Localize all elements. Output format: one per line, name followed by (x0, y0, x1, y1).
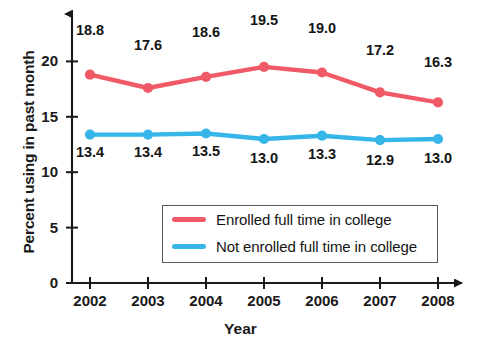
data-label-enrolled-2008: 16.3 (412, 54, 464, 70)
data-label-not-enrolled-2007: 12.9 (354, 152, 406, 168)
data-label-not-enrolled-2003: 13.4 (122, 144, 174, 160)
y-tick-label-15: 15 (24, 108, 58, 125)
y-tick-label-10: 10 (24, 163, 58, 180)
data-label-not-enrolled-2004: 13.5 (180, 143, 232, 159)
y-tick-label-5: 5 (24, 219, 58, 236)
series-line-enrolled (90, 67, 438, 103)
legend-swatch-enrolled (172, 217, 206, 223)
legend-label-not-enrolled: Not enrolled full time in college (216, 238, 417, 255)
data-label-not-enrolled-2008: 13.0 (412, 150, 464, 166)
x-tick-label-2006: 2006 (292, 292, 352, 309)
x-tick-label-2005: 2005 (234, 292, 294, 309)
data-label-not-enrolled-2002: 13.4 (64, 144, 116, 160)
y-tick-label-0: 0 (24, 274, 58, 291)
legend-label-enrolled: Enrolled full time in college (216, 211, 392, 228)
x-tick-label-2003: 2003 (118, 292, 178, 309)
x-tick-label-2008: 2008 (408, 292, 468, 309)
x-tick-label-2007: 2007 (350, 292, 410, 309)
legend: Enrolled full time in college Not enroll… (162, 205, 438, 263)
legend-item-not-enrolled[interactable]: Not enrolled full time in college (163, 233, 437, 260)
data-label-enrolled-2004: 18.6 (180, 24, 232, 40)
legend-item-enrolled[interactable]: Enrolled full time in college (163, 206, 437, 233)
x-tick-label-2002: 2002 (60, 292, 120, 309)
data-label-enrolled-2006: 19.0 (296, 20, 348, 36)
legend-swatch-not-enrolled (172, 244, 206, 250)
x-tick-label-2004: 2004 (176, 292, 236, 309)
data-label-enrolled-2002: 18.8 (64, 22, 116, 38)
x-axis-title: Year (0, 320, 481, 338)
data-label-enrolled-2003: 17.6 (122, 37, 174, 53)
data-label-enrolled-2005: 19.5 (238, 12, 290, 28)
data-label-enrolled-2007: 17.2 (354, 42, 406, 58)
line-chart: Percent using in past month Year 0 5 10 … (0, 0, 481, 349)
y-tick-label-20: 20 (24, 52, 58, 69)
data-label-not-enrolled-2005: 13.0 (238, 150, 290, 166)
data-label-not-enrolled-2006: 13.3 (296, 146, 348, 162)
